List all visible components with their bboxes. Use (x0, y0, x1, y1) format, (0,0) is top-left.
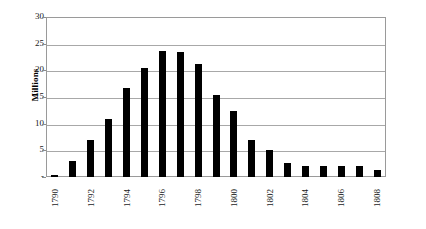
y-axis-tick-label: 20 (18, 65, 44, 74)
y-axis-tick-mark (42, 177, 46, 178)
y-axis-tick-labels: 30252015105- (18, 0, 44, 229)
x-axis-tick-label: 1790 (50, 178, 60, 218)
gridline (47, 71, 385, 72)
x-axis-tick-label: 1792 (86, 178, 96, 218)
x-axis-tick-label: 1794 (122, 178, 132, 218)
y-axis-tick-label: 10 (18, 119, 44, 128)
x-axis-tick-label: 1800 (229, 178, 239, 218)
y-axis-tick-mark (42, 44, 46, 45)
bar-chart: Millions 30252015105- 179017921794179617… (0, 0, 426, 229)
y-axis-tick-mark (42, 124, 46, 125)
y-axis-tick-label: 5 (18, 145, 44, 154)
y-axis-tick-mark (42, 70, 46, 71)
x-axis-tick-labels: 1790179217941796179818001802180418061808 (46, 179, 386, 229)
gridline (47, 98, 385, 99)
y-axis-tick-label: 30 (18, 12, 44, 21)
x-axis-tick-label: 1804 (300, 178, 310, 218)
plot-area (46, 17, 386, 177)
y-axis-tick-label: 15 (18, 92, 44, 101)
x-axis-tick-label: 1808 (372, 178, 382, 218)
y-axis-tick-mark (42, 150, 46, 151)
x-axis-tick-label: 1806 (336, 178, 346, 218)
x-axis-tick-label: 1802 (265, 178, 275, 218)
gridline (47, 125, 385, 126)
x-axis-tick-label: 1798 (193, 178, 203, 218)
gridline (47, 45, 385, 46)
x-axis-tick-label: 1796 (157, 178, 167, 218)
gridline (47, 151, 385, 152)
y-axis-tick-mark (42, 17, 46, 18)
y-axis-tick-label: 25 (18, 39, 44, 48)
y-axis-tick-mark (42, 97, 46, 98)
y-axis-tick-label: - (18, 172, 44, 181)
